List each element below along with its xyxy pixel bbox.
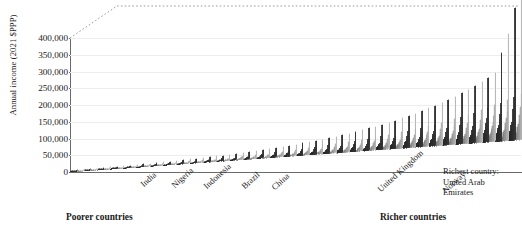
bar-side-face [300,152,301,155]
bar-side-face [280,154,281,157]
bar-side-face [388,135,389,150]
bar-side-face [349,133,350,152]
bar-side-face [256,151,257,159]
y-axis-tick-labels: 400,000350,000300,000250,000200,000150,0… [16,0,68,238]
bar-side-face [426,137,427,146]
bar-side-face [382,124,383,150]
bar-side-face [138,166,139,167]
bar-side-face [331,151,332,153]
bar-side-face [504,129,505,141]
bar-side-face [440,133,441,146]
bar-side-face [176,162,177,164]
bar-side-face [442,102,443,145]
x-label-india: India [138,170,158,189]
bar-side-face [130,165,131,168]
y-tick-50000: 50,000 [43,150,68,160]
bar-side-face [438,139,439,146]
y-tick-150000: 150,000 [38,117,68,127]
bar-side-face [509,136,510,141]
bar-side-face [496,135,497,142]
y-tick-350000: 350,000 [38,50,68,60]
bar-side-face [229,157,230,161]
bar-side-face [258,157,259,159]
bar-side-face [363,149,364,151]
bar-side-face [513,116,514,141]
bar-side-face [400,139,401,148]
bar-side-face [362,130,363,152]
bar-side-face [126,167,127,168]
bar-series [70,4,522,172]
bar-side-face [183,160,184,164]
bar-side-face [494,105,495,142]
bar-side-face [481,110,482,143]
bar-side-face [437,140,438,146]
bar-side-face [427,132,428,147]
bar-side-face [228,158,229,161]
bar-side-face [498,127,499,141]
bar-side-face [431,140,432,147]
bar-side-face [215,159,216,162]
bar-side-face [95,169,96,170]
bar-side-face [428,126,429,147]
bar-side-face [518,123,519,140]
bar-side-face [359,147,360,151]
bar-side-face [406,140,407,148]
bar-side-face [312,152,313,155]
bar-side-face [446,134,447,145]
bar-side-face [408,130,409,148]
bar-side-face [370,148,371,151]
bar-side-face [447,127,448,145]
bar-side-face [248,156,249,159]
bar-side-face [465,133,466,144]
bar-side-face [333,149,334,153]
bar-side-face [487,117,488,142]
bar-side-face [337,151,338,153]
bar-side-face [479,128,480,143]
bar-side-face [299,153,300,156]
bar-side-face [327,149,328,154]
bar-side-face [471,134,472,143]
bar-side-face [236,153,237,160]
bar-side-face [254,156,255,159]
bar-side-face [491,131,492,142]
bar-side-face [335,144,336,153]
bar-side-face [241,157,242,160]
bar-side-face [116,167,117,169]
bar-side-face [459,132,460,145]
y-tick-250000: 250,000 [38,83,68,93]
bar-side-face [343,151,344,153]
bar-side-face [367,144,368,151]
bar-side-face [111,168,112,169]
bar-side-face [475,85,476,143]
bar-side-face [140,166,141,167]
y-tick-0: 0 [63,167,68,177]
bar-side-face [193,162,194,163]
bar-side-face [424,142,425,147]
bar-side-face [345,149,346,152]
bar-side-face [439,135,440,146]
bar-side-face [436,143,437,146]
bar-side-face [432,138,433,146]
bar-side-face [347,146,348,152]
bar-side-face [223,155,224,161]
bar-side-face [520,106,521,140]
bar-side-face [164,164,165,165]
bar-side-face [445,136,446,145]
bar-side-face [430,142,431,146]
bar-side-face [180,163,181,164]
bar-side-face [103,168,104,169]
bar-side-face [195,161,196,163]
bar-side-face [372,146,373,151]
bar-side-face [361,143,362,152]
bar-side-face [302,149,303,156]
bar-side-face [268,154,269,158]
bar-side-face [329,138,330,154]
bar-side-face [245,158,246,159]
bar-side-face [203,157,204,162]
y-tick-200000: 200,000 [38,100,68,110]
bar-side-face [178,163,179,164]
bar-side-face [374,141,375,151]
bar-side-face [404,144,405,148]
bar-side-face [341,146,342,153]
bar-side-face [394,138,395,149]
